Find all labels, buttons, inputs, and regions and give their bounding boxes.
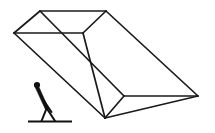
chute-edge-long-bottom-left [14, 33, 105, 118]
chute-edge-top-left-front [14, 11, 40, 33]
line-drawing-figure [0, 0, 215, 133]
figure-container: Person pushing an inclined open rectangu… [0, 0, 215, 133]
chute-shape [14, 11, 198, 118]
chute-edge-long-far-top [106, 11, 198, 96]
chute-edge-far-end-lower [105, 96, 198, 118]
chute-edge-inner-near-corner [83, 11, 106, 33]
person-back-leg [42, 109, 47, 121]
chute-edge-long-outer-top [40, 11, 124, 96]
stick-figure-person [34, 82, 55, 121]
chute-edge-long-inner [83, 33, 105, 118]
